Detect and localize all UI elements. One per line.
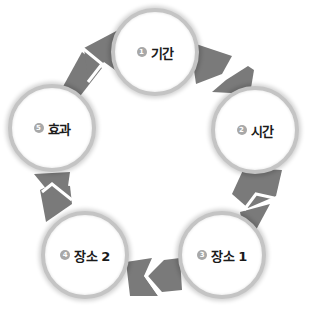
node-label: 효과 (48, 119, 71, 138)
node-label: 기간 (151, 43, 174, 62)
node-label: 장소 2 (74, 246, 110, 265)
step-number-badge: 5 (34, 123, 44, 133)
cycle-node-5: 5 효과 (8, 84, 96, 172)
cycle-node-1: 1 기간 (111, 8, 199, 96)
step-number-badge: 1 (137, 47, 147, 57)
node-label: 시간 (251, 121, 274, 140)
cycle-node-3: 3 장소 1 (178, 211, 266, 299)
step-number-badge: 4 (60, 250, 70, 260)
cycle-diagram: 1 기간 2 시간 3 장소 1 4 장소 2 5 효과 (0, 0, 309, 309)
cycle-node-2: 2 시간 (211, 86, 299, 174)
step-number-badge: 2 (237, 125, 247, 135)
cycle-node-4: 4 장소 2 (41, 211, 129, 299)
node-label: 장소 1 (211, 246, 247, 265)
arrow-3-to-4-icon (126, 258, 182, 296)
step-number-badge: 3 (197, 250, 207, 260)
